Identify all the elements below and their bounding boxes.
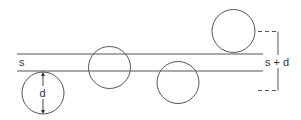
spacing-diagram: s d s + d (0, 0, 301, 120)
label-s-plus-d: s + d (265, 56, 289, 68)
circle-crossing (89, 47, 131, 89)
arrowhead-down-icon (41, 110, 45, 114)
label-d: d (40, 87, 46, 99)
label-s: s (19, 56, 25, 68)
circle-above (212, 10, 255, 53)
arrowhead-up-icon (41, 72, 45, 76)
circle-below (157, 62, 199, 104)
